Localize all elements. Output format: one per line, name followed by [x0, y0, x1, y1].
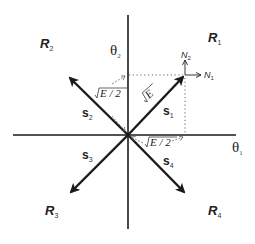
dimension-arrow-right [172, 137, 183, 141]
signal-vector-s1 [128, 77, 183, 135]
signal-space-diagram: R1 R2 R3 R4 s1 s2 s3 s4 θ2 θ1 [0, 0, 255, 244]
axis-label-theta1: θ1 [232, 139, 243, 157]
signal-label-s1: s1 [163, 104, 174, 119]
signal-vector-s3 [71, 135, 128, 192]
region-label-r2: R2 [40, 36, 53, 52]
noise-labels: N1 N2 [181, 50, 215, 81]
signal-label-s3: s3 [82, 148, 93, 163]
noise-label-n2: N2 [181, 50, 192, 61]
region-label-r1: R1 [208, 30, 221, 46]
svg-text:E: E [142, 87, 156, 101]
region-labels: R1 R2 R3 R4 [40, 30, 221, 219]
axis-labels: θ2 θ1 [110, 42, 243, 157]
dimension-arrow-top [112, 76, 125, 84]
axis-label-theta2: θ2 [110, 42, 121, 60]
magnitude-label-sqrt-e: E [139, 83, 160, 104]
svg-text:E / 2: E / 2 [99, 87, 121, 99]
dimension-indicators [112, 76, 183, 143]
signal-label-s2: s2 [82, 106, 93, 121]
noise-label-n1: N1 [204, 70, 215, 81]
svg-text:E / 2: E / 2 [149, 136, 171, 148]
region-label-r4: R4 [208, 203, 221, 219]
region-label-r3: R3 [45, 203, 58, 219]
signal-label-s4: s4 [163, 154, 174, 169]
magnitude-label-sqrt-e-half-vertical: E / 2 [95, 87, 127, 99]
noise-vectors [185, 60, 201, 75]
magnitude-label-sqrt-e-half-horizontal: E / 2 [145, 136, 177, 148]
